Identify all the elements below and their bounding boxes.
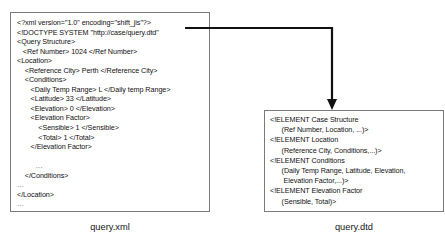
xml-code-line: </Location>	[17, 190, 205, 200]
xml-code-line: ...	[17, 199, 205, 209]
xml-code-line: <Daily Temp Range> L </Daily temp Range>	[17, 85, 205, 95]
xml-panel-caption: query.xml	[10, 221, 210, 233]
dtd-code-panel: <!ELEMENT Case Structure (Ref Number, Lo…	[264, 110, 444, 212]
xml-code-line: <Ref Number> 1024 </Ref Number>	[17, 47, 205, 57]
dtd-code-line: <!ELEMENT Conditions	[270, 156, 440, 166]
xml-code-line: <Elevation Factor>	[17, 113, 205, 123]
dtd-panel-caption: query.dtd	[264, 221, 444, 233]
dtd-code-line: <!ELEMENT Location	[270, 135, 440, 145]
xml-code-line: ...	[17, 180, 205, 190]
dtd-code-line: (Reference City, Conditions,...)>	[270, 146, 440, 156]
xml-code-line: </Elevation Factor>	[17, 142, 205, 152]
xml-code-line: <Query Structure>	[17, 37, 205, 47]
xml-code-line: </Query Structure>	[17, 209, 205, 212]
xml-code-line: </Conditions>	[17, 171, 205, 181]
dtd-code-line: (Sensible, Total)>	[270, 197, 440, 207]
xml-code-line: <?xml version="1.0" encoding="shift_jis"…	[17, 18, 205, 28]
xml-code-line: <!DOCTYPE SYSTEM "http://case/query.dtd"	[17, 28, 205, 38]
dtd-code-line: (Ref Number, Location, ...)>	[270, 125, 440, 135]
xml-code-line: <Location>	[17, 56, 205, 66]
xml-code-line: <Reference City> Perth </Reference City>	[17, 66, 205, 76]
xml-code-line: <Total> 1 </Total>	[17, 133, 205, 143]
xml-code-line: <Conditions>	[17, 75, 205, 85]
dtd-code-line: (Daily Temp Range, Latitude, Elevation,	[270, 166, 440, 176]
xml-code-line: <Latitude> 33 </Latitude>	[17, 94, 205, 104]
xml-code-line: <Elevation> 0 </Elevation>	[17, 104, 205, 114]
xml-code-line	[17, 152, 205, 162]
dtd-code-line: <!ELEMENT Elevation Factor	[270, 186, 440, 196]
xml-code-panel: <?xml version="1.0" encoding="shift_jis"…	[10, 12, 210, 212]
arrow-head-icon	[327, 99, 337, 110]
xml-code-line: <Sensible> 1 </Sensible>	[17, 123, 205, 133]
dtd-code-line: Elevation Factor,...)>	[270, 176, 440, 186]
dtd-code-line: <!ELEMENT Case Structure	[270, 115, 440, 125]
dtd-code-line: ...	[270, 207, 440, 212]
figure-canvas: <?xml version="1.0" encoding="shift_jis"…	[0, 0, 445, 239]
xml-code-line: ...	[17, 161, 205, 171]
